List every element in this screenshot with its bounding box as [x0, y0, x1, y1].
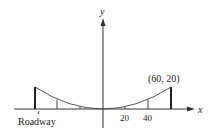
x-tick-40: 40	[143, 113, 153, 123]
y-axis-label: y	[99, 6, 105, 17]
point-label: (60, 20)	[148, 73, 180, 85]
x-axis-arrow-icon	[187, 107, 195, 112]
suspension-bridge-diagram: x y 20 40 (60, 20) Roadway	[0, 0, 213, 138]
x-tick-20: 20	[120, 113, 130, 123]
x-axis-label: x	[197, 104, 203, 115]
y-axis-arrow-icon	[101, 18, 106, 26]
roadway-pointer	[38, 111, 39, 114]
roadway-label: Roadway	[18, 116, 56, 127]
